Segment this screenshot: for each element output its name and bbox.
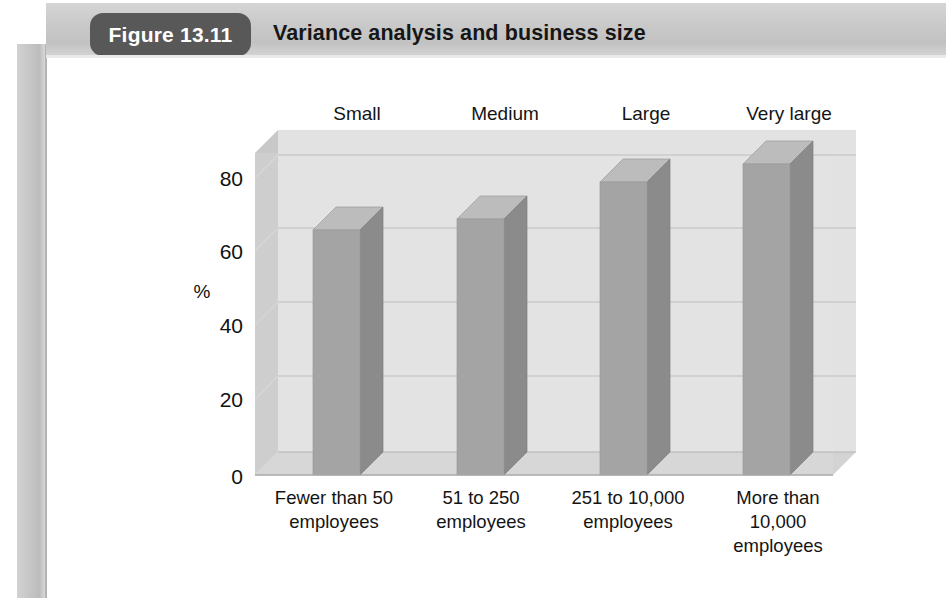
- bar-front-large: [600, 182, 647, 475]
- category-label-medium: Medium: [471, 103, 539, 124]
- x-label-1-line-2: employees: [289, 511, 378, 532]
- bar-side-large: [647, 159, 670, 475]
- bar-chart: 80 60 40 20 0 % Small Medium Large Very …: [0, 58, 946, 598]
- category-label-large: Large: [622, 103, 671, 124]
- bar-group-very-large[interactable]: [743, 141, 813, 475]
- x-label-4-line-2: 10,000: [750, 511, 807, 532]
- y-axis-ticks: 80 60 40 20 0: [220, 167, 243, 488]
- bar-front-very-large: [743, 164, 790, 475]
- x-label-1-line-1: Fewer than 50: [275, 487, 393, 508]
- x-axis-labels: Fewer than 50 employees 51 to 250 employ…: [275, 487, 823, 556]
- y-tick-60: 60: [220, 240, 243, 263]
- x-label-4-line-1: More than: [736, 487, 819, 508]
- x-label-3-line-1: 251 to 10,000: [571, 487, 684, 508]
- x-label-4-line-3: employees: [733, 535, 822, 556]
- y-axis-title: %: [194, 281, 211, 302]
- x-label-2-line-2: employees: [436, 511, 525, 532]
- bar-side-small: [360, 207, 383, 475]
- bar-front-medium: [457, 219, 504, 475]
- x-label-2-line-1: 51 to 250: [442, 487, 519, 508]
- y-tick-0: 0: [231, 465, 243, 488]
- y-tick-80: 80: [220, 167, 243, 190]
- y-tick-20: 20: [220, 388, 243, 411]
- figure-page: Figure 13.11 Variance analysis and busin…: [0, 0, 946, 598]
- y-tick-40: 40: [220, 314, 243, 337]
- figure-number-badge: Figure 13.11: [90, 13, 251, 56]
- bar-front-small: [313, 230, 360, 475]
- category-label-very-large: Very large: [746, 103, 832, 124]
- bar-side-medium: [504, 196, 527, 475]
- figure-title: Variance analysis and business size: [273, 21, 646, 46]
- bar-group-large[interactable]: [600, 159, 670, 475]
- x-label-3-line-2: employees: [583, 511, 672, 532]
- bar-side-very-large: [790, 141, 813, 475]
- category-top-labels: Small Medium Large Very large: [333, 103, 832, 124]
- bar-group-medium[interactable]: [457, 196, 527, 475]
- figure-header-banner: Figure 13.11 Variance analysis and busin…: [46, 3, 946, 58]
- chart-canvas: 80 60 40 20 0 % Small Medium Large Very …: [0, 58, 946, 598]
- bar-group-small[interactable]: [313, 207, 383, 475]
- category-label-small: Small: [333, 103, 381, 124]
